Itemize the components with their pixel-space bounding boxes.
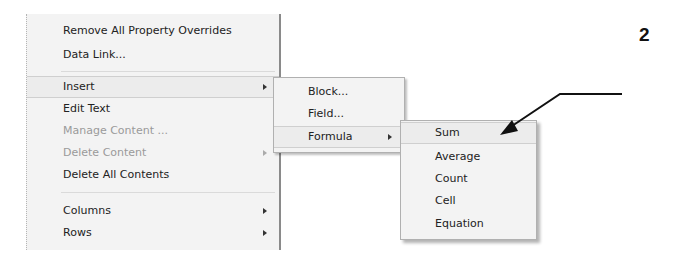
callout-arrow-icon	[0, 0, 679, 260]
callout-number: 2	[639, 24, 650, 46]
